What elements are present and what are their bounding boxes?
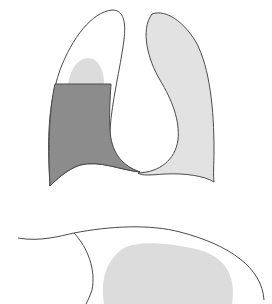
opacity-blob-lower — [103, 243, 233, 304]
right-lung — [138, 13, 214, 182]
lung-diagram — [0, 0, 272, 304]
lower-outline-inner — [74, 233, 93, 304]
pleural-fluid — [49, 84, 140, 186]
